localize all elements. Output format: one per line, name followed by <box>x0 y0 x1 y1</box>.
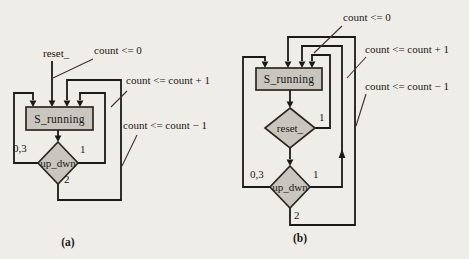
reset-decision-label-b: reset_ <box>262 123 318 134</box>
decision-label-a: up_dwn <box>30 158 86 169</box>
branch-label-hold-a: 0,3 <box>13 143 27 154</box>
state-label-a: S_running <box>26 107 93 130</box>
annotation-increment-b: count <= count + 1 <box>365 44 449 55</box>
pointer-increment-annotation-b <box>347 57 366 78</box>
branch-label-up-a: 1 <box>80 144 86 155</box>
figure-canvas: reset_ count <= 0 count <= count + 1 cou… <box>0 0 469 259</box>
annotation-reset-a: count <= 0 <box>94 45 142 56</box>
branch-label-down-a: 2 <box>64 174 70 185</box>
annotation-decrement-a: count <= count − 1 <box>123 120 207 131</box>
reset-input-label-a: reset_ <box>43 48 69 59</box>
branch-label-down-b: 2 <box>294 210 300 221</box>
decision-label-b: up_dwn <box>262 182 318 193</box>
pointer-increment-annotation-a <box>111 91 127 107</box>
annotation-reset-b: count <= 0 <box>343 12 391 23</box>
branch-label-hold-b: 0,3 <box>250 169 264 180</box>
pointer-reset-annotation-b <box>314 26 342 53</box>
state-label-b: S_running <box>256 68 322 90</box>
caption-a: (a) <box>57 237 79 248</box>
reset-branch-label-b: 1 <box>319 112 325 123</box>
caption-b: (b) <box>289 233 311 244</box>
pointer-decrement-annotation-b <box>356 94 366 126</box>
annotation-decrement-b: count <= count − 1 <box>365 81 449 92</box>
branch-label-up-b: 1 <box>313 169 319 180</box>
pointer-decrement-annotation-a <box>122 135 137 166</box>
increment-loop-up-arrowhead-b <box>339 149 346 158</box>
pointer-reset-annotation-a <box>53 59 93 78</box>
annotation-increment-a: count <= count + 1 <box>126 75 210 86</box>
